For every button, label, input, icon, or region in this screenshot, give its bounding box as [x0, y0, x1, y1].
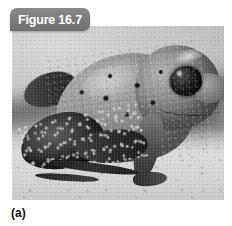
- figure-photograph: [12, 26, 224, 200]
- figure-number-label: Figure 16.7: [18, 13, 82, 27]
- figure-number-tab: Figure 16.7: [10, 8, 90, 31]
- figure-panel: Figure 16.7 (a): [0, 0, 232, 226]
- panel-caption-label: (a): [11, 206, 26, 220]
- frog-subject: [12, 26, 224, 200]
